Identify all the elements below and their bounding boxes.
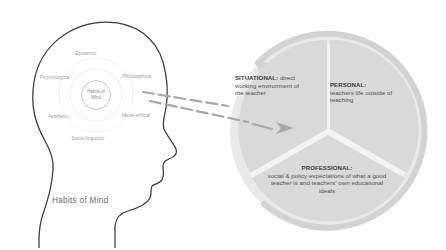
head-diagram <box>33 22 177 248</box>
head-outline-right <box>107 22 177 248</box>
hom-label-moral-ethical: Moral-ethical <box>122 113 150 118</box>
circle-diagram <box>230 34 424 229</box>
connector-arrow-upper <box>143 92 228 106</box>
sector-text-personal: PERSONAL: teachers life outside of teach… <box>330 81 406 104</box>
sector-title-personal: PERSONAL: <box>330 81 366 88</box>
figure-caption: Habits of Mind <box>52 196 109 205</box>
hom-label-aesthetic: Aesthetic <box>48 114 68 119</box>
hom-core-line2: Mind <box>91 95 101 100</box>
sector-title-professional: PROFESSIONAL: <box>302 164 353 171</box>
sector-title-situational: SITUATIONAL: <box>235 74 278 81</box>
hom-label-socio-linguistic: Socio-linguistic <box>71 136 104 141</box>
hom-label-epistemic: Epistemic <box>75 51 96 56</box>
sector-text-situational: SITUATIONAL: direct working environment … <box>235 74 309 97</box>
hom-core-label: Habits of Mind <box>87 89 105 100</box>
figure-habits-of-mind: Epistemic Psychological Philosophical Ae… <box>0 0 446 250</box>
figure-canvas <box>0 0 446 250</box>
sector-body-professional: social & policy expectations of what a g… <box>268 172 386 194</box>
hom-core-line1: Habits of <box>87 89 105 94</box>
sector-body-personal: teachers life outside of teaching <box>330 89 392 104</box>
hom-label-philosophical: Philosophical <box>122 74 151 79</box>
sector-text-professional: PROFESSIONAL: social & policy expectatio… <box>263 164 391 194</box>
hom-label-psychological: Psychological <box>40 75 70 80</box>
